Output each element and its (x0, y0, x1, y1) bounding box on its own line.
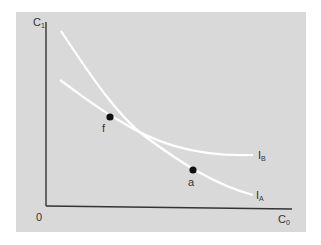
curve-ia (61, 31, 253, 195)
origin-label: 0 (36, 212, 42, 223)
point-f (106, 113, 113, 120)
x-axis (46, 206, 292, 209)
curve-ib-label: IB (258, 150, 266, 162)
curve-ia-label: IA (256, 190, 264, 202)
point-a (189, 166, 196, 173)
point-a-label: a (188, 177, 194, 188)
y-axis-label: C1 (33, 17, 45, 29)
diagram-canvas (0, 0, 321, 245)
x-axis-label: C0 (278, 214, 290, 226)
point-f-label: f (102, 123, 105, 134)
